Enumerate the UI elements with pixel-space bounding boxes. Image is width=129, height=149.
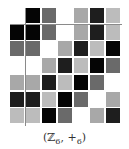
table-cell — [90, 41, 104, 56]
table-cell — [58, 108, 72, 123]
column-header-cell — [90, 8, 104, 23]
cayley-table — [10, 8, 122, 125]
table-cell — [106, 75, 120, 90]
table-cell — [26, 41, 40, 56]
table-cell — [58, 75, 72, 90]
table-cell — [42, 108, 56, 123]
row-header-cell — [10, 75, 24, 90]
table-cell — [90, 75, 104, 90]
row-header-cell — [10, 92, 24, 107]
header-row-divider — [10, 24, 122, 25]
table-cell — [26, 58, 40, 73]
table-cell — [106, 58, 120, 73]
table-cell — [74, 75, 88, 90]
column-header-cell — [58, 8, 72, 23]
table-cell — [42, 75, 56, 90]
table-cell — [106, 92, 120, 107]
table-cell — [42, 58, 56, 73]
header-column-divider — [25, 8, 26, 126]
table-cell — [42, 92, 56, 107]
table-cell — [58, 92, 72, 107]
caption-order: 6 — [55, 137, 60, 146]
table-cell — [90, 108, 104, 123]
table-cell — [106, 25, 120, 40]
table-cell — [106, 41, 120, 56]
table-cell — [106, 108, 120, 123]
table-cell — [74, 58, 88, 73]
column-header-cell — [106, 8, 120, 23]
row-header-cell — [10, 108, 24, 123]
table-cell — [74, 108, 88, 123]
caption: (ℤ6, +6) — [0, 131, 129, 146]
row-header-cell — [10, 41, 24, 56]
row-header-cell — [10, 58, 24, 73]
table-cell — [58, 41, 72, 56]
column-header-cell — [74, 8, 88, 23]
table-cell — [58, 58, 72, 73]
caption-op-sub: 6 — [77, 137, 82, 146]
caption-op: + — [67, 131, 76, 144]
table-cell — [90, 58, 104, 73]
table-cell — [58, 25, 72, 40]
table-cell — [26, 25, 40, 40]
table-cell — [74, 41, 88, 56]
table-cell — [26, 75, 40, 90]
table-cell — [26, 108, 40, 123]
column-header-cell — [42, 8, 56, 23]
table-cell — [42, 25, 56, 40]
table-cell — [74, 92, 88, 107]
column-header-cell — [26, 8, 40, 23]
table-cell — [74, 25, 88, 40]
table-cell — [90, 25, 104, 40]
row-header-cell — [10, 25, 24, 40]
table-cell — [42, 41, 56, 56]
table-cell — [26, 92, 40, 107]
table-cell — [90, 92, 104, 107]
